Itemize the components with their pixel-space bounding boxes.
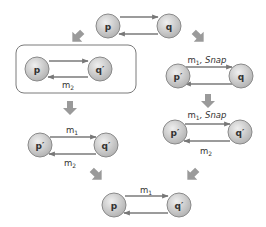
node-label: q — [238, 72, 244, 82]
edge-label-m1-snap: m1, Snap — [188, 55, 227, 66]
node-p: p — [96, 14, 120, 38]
arrow-down-left-icon — [67, 27, 87, 47]
top-pair: p q — [96, 14, 181, 38]
node-label: p — [105, 22, 112, 32]
arrow-down-right-icon — [189, 27, 209, 47]
node-label: q — [166, 22, 172, 32]
node-label: p — [111, 201, 118, 211]
right-pair-1: m1, Snap p′ q — [166, 55, 253, 88]
edge-label-m2: m2 — [62, 80, 74, 91]
node-q: q — [229, 64, 253, 88]
edge-label-m1: m1 — [140, 185, 152, 196]
node-q-prime: q′ — [228, 120, 252, 144]
state-transition-diagram: p q p q′ m2 m1, Snap — [0, 0, 266, 227]
node-label: p′ — [36, 141, 45, 151]
left-pair-2: m1 p′ q′ m2 — [28, 125, 118, 169]
node-label: q′ — [102, 141, 111, 151]
node-q-prime: q′ — [94, 133, 118, 157]
node-q: q — [157, 14, 181, 38]
node-q-prime: q′ — [88, 57, 112, 81]
bottom-pair: m1 p q′ — [102, 185, 191, 217]
arrow-down-right-icon — [87, 165, 107, 185]
node-label: q′ — [175, 201, 184, 211]
arrow-down-icon — [63, 101, 77, 115]
edge-label-m2: m2 — [200, 146, 212, 157]
node-p: p — [25, 57, 49, 81]
node-label: q′ — [236, 128, 245, 138]
node-p-prime: p′ — [28, 133, 52, 157]
node-label: p′ — [174, 72, 183, 82]
node-label: p — [34, 65, 41, 75]
edge-label-m2: m2 — [64, 158, 76, 169]
edge-label-m1: m1 — [66, 125, 78, 136]
node-q-prime: q′ — [167, 193, 191, 217]
node-p-prime: p′ — [163, 120, 187, 144]
arrow-down-left-icon — [182, 165, 202, 185]
edge-label-m1-snap: m1, Snap — [188, 110, 227, 121]
node-p: p — [102, 193, 126, 217]
arrow-down-icon — [201, 94, 215, 108]
right-pair-2: m1, Snap p′ q′ m2 — [163, 110, 252, 157]
node-p-prime: p′ — [166, 64, 190, 88]
node-label: q′ — [96, 65, 105, 75]
left-box-pair: p q′ m2 — [16, 45, 136, 93]
node-label: p′ — [171, 128, 180, 138]
